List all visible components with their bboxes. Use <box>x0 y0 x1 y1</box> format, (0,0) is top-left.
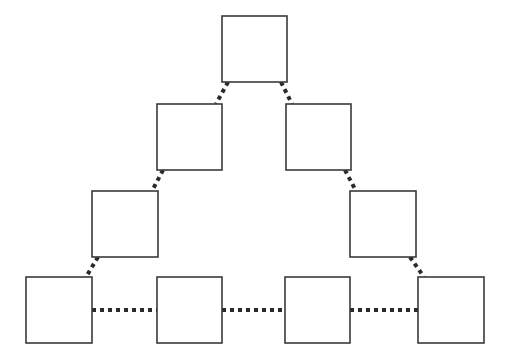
edge-top-to-row2-right <box>281 82 292 104</box>
node-row3-right <box>350 191 416 257</box>
node-row3-left <box>92 191 158 257</box>
triangle-diagram <box>0 0 505 362</box>
box-row2-right <box>286 104 351 170</box>
edge-row2-left-to-row3-left <box>152 170 163 191</box>
nodes-layer <box>26 16 484 343</box>
box-row2-left <box>157 104 222 170</box>
node-top <box>222 16 287 82</box>
node-row2-left <box>157 104 222 170</box>
node-row2-right <box>286 104 351 170</box>
box-row3-right <box>350 191 416 257</box>
edge-row3-left-to-bottom-1 <box>86 257 98 277</box>
box-top <box>222 16 287 82</box>
node-bottom-3 <box>285 277 350 343</box>
box-bottom-1 <box>26 277 92 343</box>
box-row3-left <box>92 191 158 257</box>
box-bottom-4 <box>418 277 484 343</box>
node-bottom-4 <box>418 277 484 343</box>
box-bottom-2 <box>157 277 222 343</box>
box-bottom-3 <box>285 277 350 343</box>
edge-top-to-row2-left <box>216 82 228 104</box>
edge-row2-right-to-row3-right <box>345 170 356 191</box>
edge-row3-right-to-bottom-4 <box>410 257 424 277</box>
node-bottom-1 <box>26 277 92 343</box>
node-bottom-2 <box>157 277 222 343</box>
